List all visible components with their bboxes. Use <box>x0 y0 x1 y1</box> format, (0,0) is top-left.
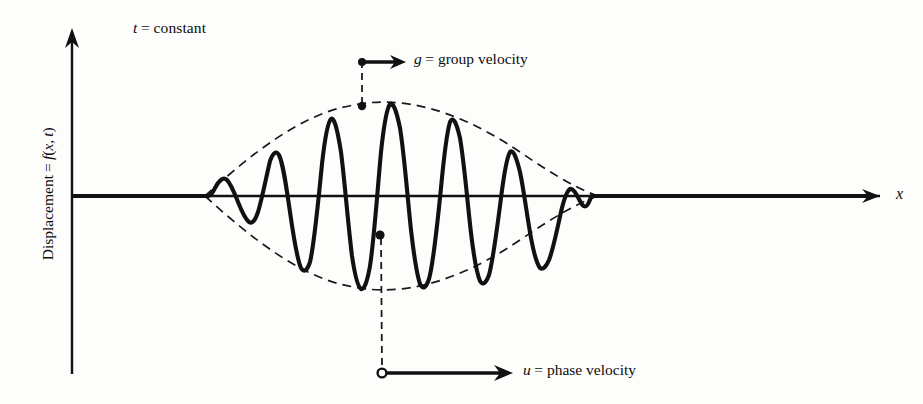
phase-velocity-leader-line <box>381 238 382 368</box>
x-axis-label: x <box>896 186 903 202</box>
group-velocity-label: g = group velocity <box>414 51 528 67</box>
time-constant-value: constant <box>154 19 206 36</box>
group-velocity-envelope-dot <box>358 102 366 110</box>
y-axis-label-prefix: Displacement = <box>39 160 56 260</box>
phase-velocity-origin-dot <box>378 369 387 378</box>
lower-envelope-curve <box>205 196 598 290</box>
time-constant-label: t = constant <box>133 20 206 36</box>
group-velocity-annotation <box>358 55 406 110</box>
y-axis <box>65 28 79 374</box>
group-velocity-text: group velocity <box>438 50 528 67</box>
phase-velocity-wave-dot <box>375 230 384 239</box>
phase-velocity-label: u = phase velocity <box>523 362 636 378</box>
group-velocity-origin-dot <box>358 58 366 66</box>
phase-velocity-text: phase velocity <box>547 361 636 378</box>
y-axis-label: Displacement = f(x, t) <box>40 84 56 304</box>
wave-packet-figure: t = constant g = group velocity u = phas… <box>0 0 923 404</box>
